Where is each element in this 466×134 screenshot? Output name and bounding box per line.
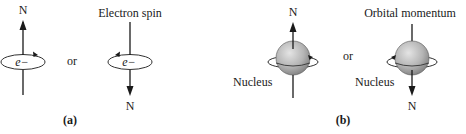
north-pole-label: N: [19, 3, 28, 17]
panel-b: N Nucleus or Orbital momentum Nucleus N …: [233, 5, 456, 127]
north-pole-label: N: [289, 5, 298, 19]
spin-diagram: N e− or Electron spin e− N (a) N: [0, 0, 466, 134]
electron-spin-up: N e−: [1, 3, 45, 95]
electron-spin-down: Electron spin e− N: [98, 6, 162, 113]
north-pole-label: N: [126, 99, 135, 113]
or-separator: or: [343, 49, 353, 63]
panel-a: N e− or Electron spin e− N (a): [1, 3, 162, 127]
caption-b: (b): [336, 113, 351, 127]
nucleus-label: Nucleus: [233, 75, 273, 89]
arrowhead-icon: [20, 20, 27, 30]
arrowhead-icon: [127, 86, 134, 96]
north-pole-label: N: [408, 99, 417, 113]
nucleus-spin-up: N Nucleus: [233, 5, 318, 98]
nucleus-spin-down: Orbital momentum Nucleus N: [355, 6, 456, 113]
caption-a: (a): [63, 113, 77, 127]
nucleus-sphere: [395, 41, 429, 75]
electron-label: e−: [15, 55, 28, 69]
nucleus-label: Nucleus: [355, 75, 395, 89]
orbital-momentum-title: Orbital momentum: [364, 6, 456, 20]
arrowhead-icon: [409, 86, 416, 96]
or-separator: or: [67, 54, 77, 68]
electron-label: e−: [122, 55, 135, 69]
electron-spin-title: Electron spin: [98, 6, 162, 20]
arrowhead-icon: [290, 22, 297, 32]
